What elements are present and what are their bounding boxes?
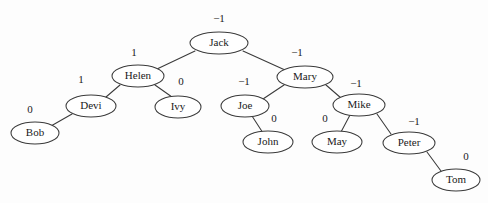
balance-factor-mike: −1: [350, 77, 362, 89]
node-label-joe: Joe: [238, 99, 253, 111]
balance-factor-bob: 0: [27, 103, 33, 115]
tree-edge-mike-peter: [377, 114, 391, 134]
node-label-may: May: [327, 135, 348, 147]
nodes-group: JackHelenMaryDeviIvyJoeMikeBobJohnMayPet…: [11, 32, 480, 191]
tree-node-joe[interactable]: Joe: [221, 95, 269, 117]
node-label-jack: Jack: [209, 36, 229, 48]
node-label-mike: Mike: [347, 98, 370, 110]
balance-factor-peter: −1: [408, 115, 420, 127]
tree-node-devi[interactable]: Devi: [66, 95, 116, 117]
tree-edge-mary-mike: [326, 85, 341, 98]
balance-factor-jack: −1: [213, 12, 225, 24]
tree-canvas: JackHelenMaryDeviIvyJoeMikeBobJohnMayPet…: [0, 0, 488, 203]
balance-factor-tom: 0: [463, 150, 469, 162]
tree-node-may[interactable]: May: [312, 131, 362, 153]
tree-edge-mike-may: [341, 115, 350, 132]
tree-node-tom[interactable]: Tom: [432, 169, 480, 191]
balance-factor-devi: 1: [78, 73, 84, 85]
node-label-mary: Mary: [293, 70, 317, 82]
balance-factor-may: 0: [322, 112, 328, 124]
balance-factor-ivy: 0: [178, 75, 184, 87]
tree-node-jack[interactable]: Jack: [190, 32, 248, 54]
node-label-devi: Devi: [80, 99, 101, 111]
tree-edge-jack-helen: [157, 51, 195, 69]
tree-node-helen[interactable]: Helen: [112, 65, 164, 87]
node-label-ivy: Ivy: [171, 100, 186, 112]
tree-node-john[interactable]: John: [243, 131, 293, 153]
tree-node-peter[interactable]: Peter: [383, 132, 435, 154]
tree-edge-helen-ivy: [155, 85, 172, 97]
tree-edge-mary-joe: [263, 85, 284, 99]
tree-edge-joe-john: [252, 116, 263, 133]
tree-edge-helen-devi: [106, 85, 120, 97]
tree-edge-peter-tom: [427, 152, 441, 171]
tree-node-bob[interactable]: Bob: [11, 122, 59, 144]
balance-factor-helen: 1: [131, 46, 137, 58]
node-label-bob: Bob: [26, 126, 45, 138]
node-label-peter: Peter: [398, 136, 421, 148]
node-label-tom: Tom: [446, 173, 466, 185]
balance-factor-mary: −1: [291, 46, 303, 58]
balance-factor-joe: −1: [238, 75, 250, 87]
tree-node-ivy[interactable]: Ivy: [155, 96, 201, 118]
tree-node-mike[interactable]: Mike: [333, 94, 385, 116]
node-label-john: John: [258, 135, 279, 147]
tree-node-mary[interactable]: Mary: [277, 66, 333, 88]
tree-edge-devi-bob: [51, 114, 72, 126]
balance-factor-john: 0: [271, 112, 277, 124]
node-label-helen: Helen: [125, 69, 152, 81]
tree-edge-jack-mary: [243, 51, 285, 70]
tree-diagram: JackHelenMaryDeviIvyJoeMikeBobJohnMayPet…: [0, 0, 488, 203]
